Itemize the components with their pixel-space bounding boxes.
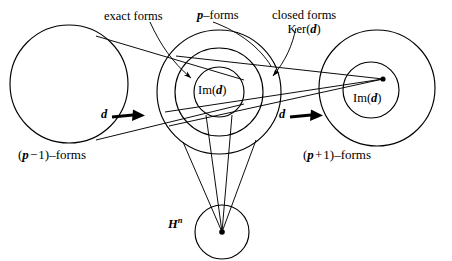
label-p-forms-suffix: –forms (203, 8, 238, 22)
label-im-d-right-operator: d (371, 91, 377, 105)
label-cohomology-degree: n (178, 215, 183, 225)
label-ker-d: Ker(d) (272, 23, 336, 36)
label-p-forms: p–forms (197, 9, 239, 22)
label-p-plus-1-var: p (307, 147, 314, 162)
leader-exact-forms (150, 22, 191, 78)
label-closed-forms: closed forms Ker(d) (272, 9, 336, 36)
label-im-d-center-operator: d (216, 83, 222, 97)
d-arrow-right (290, 110, 323, 122)
map-line-left-upper (96, 36, 244, 80)
right-circle-im-d (343, 62, 399, 118)
right-circle-p-plus-1-forms (319, 30, 435, 146)
label-cohomology-symbol: H (168, 217, 178, 231)
label-d-right: d (279, 108, 285, 121)
label-p-minus-1-var: p (22, 147, 29, 162)
right-image-point-dot (380, 76, 385, 81)
cohomology-diagram: exact forms p–forms closed forms Ker(d) … (0, 0, 452, 261)
cohomology-point-dot (219, 229, 225, 235)
label-cohomology: Hn (168, 216, 182, 231)
leader-p-forms (213, 22, 271, 66)
left-circle-p-minus-1-forms (10, 25, 128, 143)
label-d-left: d (101, 108, 107, 121)
quotient-line-inner-right (222, 115, 232, 232)
diagram-canvas (0, 0, 452, 261)
label-p-minus-1-forms: (p − 1)–forms (18, 148, 86, 162)
label-exact-forms: exact forms (104, 10, 163, 23)
label-ker-d-operator: d (310, 22, 316, 36)
label-closed-forms-line1: closed forms (272, 9, 336, 22)
map-line-left-lower (96, 104, 244, 140)
label-im-d-right: Im(d) (353, 92, 381, 105)
label-p-plus-1-forms: (p + 1)–forms (303, 148, 371, 162)
label-im-d-center: Im(d) (198, 84, 226, 97)
